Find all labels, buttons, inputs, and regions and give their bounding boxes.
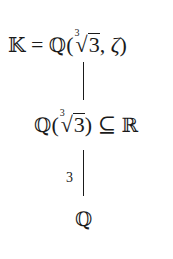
- subset-eq-symbol: ⊆: [98, 112, 116, 137]
- close-paren: ): [120, 32, 127, 57]
- radicand: 3: [73, 113, 85, 136]
- zeta-symbol: ζ: [111, 32, 120, 57]
- edge-degree-label: 3: [66, 170, 73, 186]
- edge-bottom-to-middle: [83, 150, 84, 196]
- root-index: 3: [75, 28, 80, 38]
- field-Q-symbol: ℚ: [34, 113, 51, 137]
- close-paren: ): [85, 112, 92, 137]
- root-index: 3: [60, 108, 65, 118]
- middle-field-node: ℚ(3√3) ⊆ ℝ: [34, 113, 138, 136]
- bottom-field-node: ℚ: [75, 208, 92, 230]
- field-R-symbol: ℝ: [122, 113, 139, 137]
- open-paren: (: [51, 112, 58, 137]
- cube-root-3: 3√3: [74, 33, 100, 56]
- equals-sign: =: [31, 32, 43, 57]
- field-Q-symbol: ℚ: [75, 207, 92, 231]
- field-K-symbol: 𝕂: [8, 33, 25, 57]
- open-paren: (: [66, 32, 73, 57]
- radicand: 3: [88, 33, 100, 56]
- top-field-node: 𝕂 = ℚ(3√3, ζ): [8, 33, 127, 56]
- field-Q-symbol: ℚ: [49, 33, 66, 57]
- edge-middle-to-top: [83, 62, 84, 100]
- cube-root-3: 3√3: [59, 113, 85, 136]
- comma: ,: [100, 32, 106, 57]
